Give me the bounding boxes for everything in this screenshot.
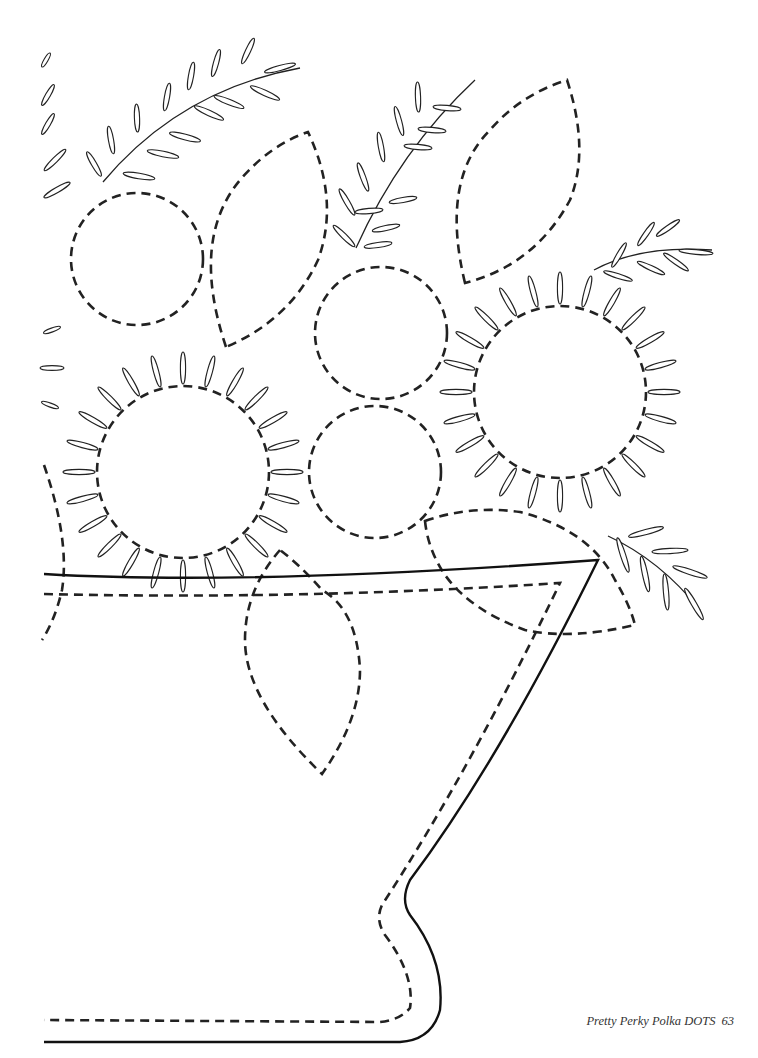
fern-sprig-lower-right [608,525,708,621]
book-title: Pretty Perky Polka DOTS [586,1014,715,1028]
page-footer: Pretty Perky Polka DOTS63 [586,1014,734,1029]
page-number: 63 [722,1014,735,1028]
fern-sprig-right [594,218,713,283]
pattern-artwork [0,0,758,1058]
sunflower-left [63,352,303,592]
dashed-circle-top-left [71,193,203,325]
dashed-leaf-top-center [211,132,327,347]
dashed-leaf-top-right [457,80,580,283]
sunflower-right [440,272,680,512]
fern-sprig-top-left [85,37,300,182]
dashed-leaf-lower-right [425,510,635,634]
dashed-circle-center-lower [309,406,441,538]
dashed-leaf-lower-center [245,550,360,774]
vase-outline [44,560,598,1042]
dashed-arc-left-edge [42,465,64,640]
fern-sprig-top-center [332,80,475,250]
dashed-circle-center [315,267,447,399]
fern-fragment-left-edge [40,52,71,410]
